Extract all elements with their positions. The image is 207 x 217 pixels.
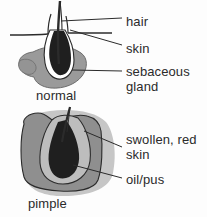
label-skin: skin: [126, 41, 150, 56]
label-swollen-red-skin: swollen, red skin: [126, 132, 197, 162]
caption-normal: normal: [36, 88, 76, 103]
normal-follicle-group: [10, 1, 112, 88]
follicle-opening-right-wall: [66, 16, 68, 33]
label-oil-pus: oil/pus: [126, 172, 164, 187]
label-sebaceous-gland: sebaceous gland: [126, 64, 190, 94]
pimple-follicle-group: [21, 107, 115, 196]
leader-line-hair: [61, 18, 122, 21]
hair-follicle-figure: hair skin sebaceous gland swollen, red s…: [0, 0, 207, 217]
follicle-diagram-svg: [0, 0, 207, 217]
hair-shaft-normal-tip: [60, 1, 62, 30]
skin-surface-line-left: [10, 34, 48, 35]
caption-pimple: pimple: [28, 196, 67, 211]
leader-line-skin: [70, 30, 122, 45]
label-hair: hair: [126, 14, 148, 29]
